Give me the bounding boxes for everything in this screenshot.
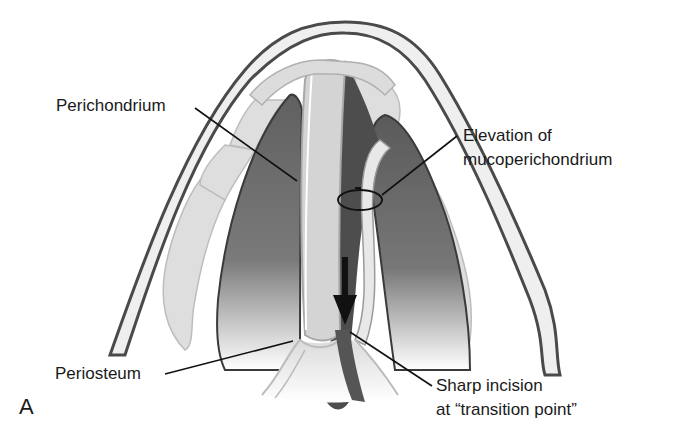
- label-periosteum: Periosteum: [55, 362, 141, 386]
- label-perichondrium: Perichondrium: [56, 94, 166, 118]
- nasal-septum-figure: Perichondrium Elevation of mucoperichond…: [0, 0, 685, 446]
- label-incision-line1: Sharp incision: [436, 374, 543, 398]
- label-incision-line2: at “transition point”: [436, 398, 577, 422]
- panel-letter: A: [19, 394, 34, 420]
- label-elevation-line2: mucoperichondrium: [463, 148, 612, 172]
- label-elevation-line1: Elevation of: [463, 124, 552, 148]
